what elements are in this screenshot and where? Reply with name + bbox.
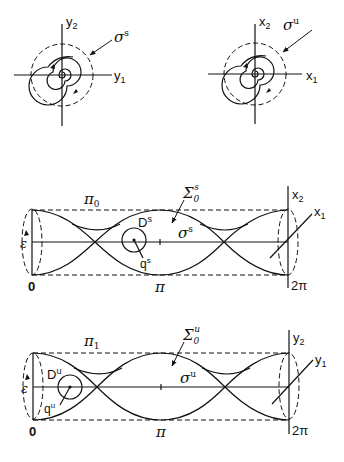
svg-text:x2: x2	[259, 14, 271, 31]
svg-text:Du: Du	[47, 366, 61, 382]
svg-text:π1: π1	[83, 332, 100, 351]
pointer-arrow-icon	[90, 40, 112, 55]
svg-text:y1: y1	[114, 68, 126, 85]
svg-text:σs: σs	[114, 28, 129, 46]
svg-text:x2: x2	[292, 187, 304, 204]
spiral-orbit	[29, 57, 81, 105]
stable-cylinder: π0 Σ0s Ds qs σs ε 0 π 2π x2 x1	[20, 182, 326, 296]
manifold-fold	[200, 224, 248, 230]
svg-text:y2: y2	[293, 330, 305, 347]
svg-text:Σ0u: Σ0u	[182, 324, 200, 346]
y1-axis	[272, 360, 313, 404]
svg-text:y2: y2	[66, 14, 78, 31]
svg-text:x1: x1	[306, 68, 318, 85]
svg-text:x1: x1	[314, 204, 326, 221]
spiral-arrow-icon	[73, 89, 78, 94]
spiral-arrow-icon	[266, 88, 271, 93]
stable-phase-portrait: y2 y1 σs	[14, 14, 129, 126]
svg-text:π0: π0	[83, 190, 100, 209]
manifold-fold	[72, 224, 120, 230]
svg-text:π: π	[155, 423, 167, 441]
svg-text:σu: σu	[180, 369, 196, 387]
unstable-phase-portrait: x2 x1 σu	[208, 14, 318, 124]
svg-text:qu: qu	[44, 401, 55, 416]
svg-text:σs: σs	[178, 224, 193, 242]
svg-text:2π: 2π	[292, 423, 308, 438]
spiral-orbit	[222, 56, 274, 104]
epsilon-arrow-icon	[25, 374, 30, 380]
svg-text:y1: y1	[315, 352, 327, 369]
spiral-arrow-icon	[243, 63, 248, 68]
x1-axis	[270, 214, 312, 258]
svg-text:2π: 2π	[291, 278, 307, 293]
svg-text:Σ0s: Σ0s	[182, 182, 200, 204]
svg-text:0: 0	[28, 279, 35, 294]
diagram-canvas: y2 y1 σs x2 x1 σu π0	[0, 0, 344, 462]
svg-text:σu: σu	[283, 16, 299, 34]
svg-text:Ds: Ds	[138, 214, 152, 230]
svg-text:ε: ε	[20, 236, 27, 251]
spiral-arrow-icon	[50, 64, 55, 69]
svg-text:qs: qs	[140, 256, 151, 271]
svg-text:ε: ε	[21, 381, 28, 396]
svg-text:0: 0	[29, 424, 36, 439]
svg-text:π: π	[154, 278, 166, 296]
unstable-cylinder: π1 Σ0u Du qu σu ε 0 π 2π y2 y1	[21, 324, 327, 441]
